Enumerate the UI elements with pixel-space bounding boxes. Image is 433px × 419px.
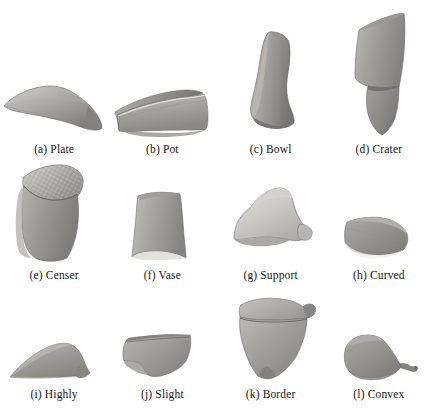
figure-caption-pot: (b) Pot xyxy=(146,143,179,156)
figure-cell-support[interactable]: (g) Support xyxy=(217,157,325,282)
figure-caption-censer: (e) Censer xyxy=(30,269,79,282)
figure-cell-highly[interactable]: (i) Highly xyxy=(0,286,108,401)
sherd-convex-icon xyxy=(325,331,433,385)
figure-caption-slight: (j) Slight xyxy=(141,388,184,401)
sherd-figure-grid: (a) Plate xyxy=(0,0,433,419)
figure-cell-censer[interactable]: (e) Censer xyxy=(0,157,108,282)
figure-caption-highly: (i) Highly xyxy=(31,388,78,401)
sherd-censer-icon xyxy=(0,162,108,266)
sherd-plate-icon xyxy=(0,80,108,140)
sherd-bowl-icon xyxy=(217,28,325,140)
figure-row-1: (a) Plate xyxy=(0,0,433,156)
figure-caption-vase: (f) Vase xyxy=(144,269,181,282)
sherd-crater-icon xyxy=(325,8,433,140)
figure-cell-convex[interactable]: (l) Convex xyxy=(325,286,433,401)
sherd-curved-icon xyxy=(325,208,433,266)
figure-row-3: (i) Highly xyxy=(0,286,433,401)
figure-cell-border[interactable]: (k) Border xyxy=(217,286,325,401)
figure-caption-plate: (a) Plate xyxy=(34,143,74,156)
figure-caption-border: (k) Border xyxy=(246,388,296,401)
figure-cell-pot[interactable]: (b) Pot xyxy=(108,0,216,156)
sherd-highly-icon xyxy=(0,331,108,385)
figure-cell-plate[interactable]: (a) Plate xyxy=(0,0,108,156)
sherd-support-icon xyxy=(217,184,325,266)
figure-cell-curved[interactable]: (h) Curved xyxy=(325,157,433,282)
sherd-vase-icon xyxy=(108,188,216,266)
sherd-border-icon xyxy=(217,297,325,385)
figure-cell-crater[interactable]: (d) Crater xyxy=(325,0,433,156)
figure-cell-bowl[interactable]: (c) Bowl xyxy=(217,0,325,156)
sherd-pot-icon xyxy=(108,82,216,140)
figure-caption-convex: (l) Convex xyxy=(353,388,404,401)
figure-cell-slight[interactable]: (j) Slight xyxy=(108,286,216,401)
sherd-slight-icon xyxy=(108,327,216,385)
figure-caption-crater: (d) Crater xyxy=(356,143,403,156)
figure-caption-curved: (h) Curved xyxy=(353,269,405,282)
figure-cell-vase[interactable]: (f) Vase xyxy=(108,157,216,282)
figure-caption-bowl: (c) Bowl xyxy=(250,143,292,156)
figure-row-2: (e) Censer xyxy=(0,157,433,282)
figure-caption-support: (g) Support xyxy=(243,269,297,282)
